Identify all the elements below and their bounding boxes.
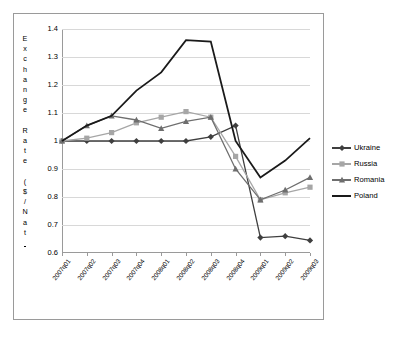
x-axis-tick-label: 2008q04 xyxy=(225,258,245,282)
y-axis-tick-label: 1.4 xyxy=(48,25,58,33)
y-axis-title-char: t xyxy=(19,228,31,238)
y-axis-tick-label: 0.8 xyxy=(48,193,58,201)
x-axis-tick-label: 2007q02 xyxy=(76,258,96,282)
y-axis-title-char: e xyxy=(19,156,31,166)
y-axis-tick-label: 0.7 xyxy=(48,221,58,229)
y-axis-title-char: E xyxy=(19,34,31,44)
y-axis-title-char: x xyxy=(19,44,31,54)
y-axis-tick-label: 1.1 xyxy=(48,109,58,117)
y-axis-title-char: $ xyxy=(19,187,31,197)
data-point-marker xyxy=(338,145,344,151)
y-axis-title-char: a xyxy=(19,136,31,146)
x-axis-tick-mark xyxy=(236,253,237,256)
y-axis-title-char: g xyxy=(19,95,31,105)
x-axis-tick-label: 2007q04 xyxy=(126,258,146,282)
y-axis-title-char: R xyxy=(19,126,31,136)
series-lines xyxy=(62,29,310,253)
y-axis-title-char: c xyxy=(19,54,31,64)
data-point-marker xyxy=(307,237,313,243)
legend-item-poland[interactable]: Poland xyxy=(332,188,402,204)
x-axis-tick-mark xyxy=(211,253,212,256)
x-axis-tick-label: 2009q01 xyxy=(250,258,270,282)
legend-label: Romania xyxy=(354,175,384,185)
y-axis-title-char: e xyxy=(19,105,31,115)
legend-key-icon xyxy=(332,191,351,201)
data-point-marker xyxy=(84,136,89,141)
plot-area: 1.41.31.21.110.90.80.70.6 2007q012007q02… xyxy=(62,29,310,253)
data-point-marker xyxy=(233,123,239,129)
series-line-poland xyxy=(62,40,310,177)
y-axis-title-char xyxy=(19,167,31,177)
data-point-marker xyxy=(307,185,312,190)
x-axis-tick-mark xyxy=(87,253,88,256)
series-line-romania xyxy=(62,116,310,200)
y-axis-title-char: N xyxy=(19,207,31,217)
data-point-marker xyxy=(233,166,239,172)
data-point-marker xyxy=(133,138,139,144)
data-point-marker xyxy=(257,235,263,241)
legend-item-russia[interactable]: Russia xyxy=(332,156,402,172)
data-point-marker xyxy=(183,138,189,144)
y-axis-title-char: a xyxy=(19,75,31,85)
x-axis-tick-label: 2008q01 xyxy=(151,258,171,282)
data-point-marker xyxy=(159,115,164,120)
data-point-marker xyxy=(158,138,164,144)
chart-legend: UkraineRussiaRomaniaPoland xyxy=(332,140,402,204)
series-line-russia xyxy=(62,112,310,200)
legend-label: Russia xyxy=(354,159,377,169)
x-axis-tick-mark xyxy=(62,253,63,256)
x-axis-tick-mark xyxy=(136,253,137,256)
data-point-marker xyxy=(339,161,344,166)
y-axis-title-char: a xyxy=(19,218,31,228)
data-point-marker xyxy=(307,174,313,180)
x-axis-tick-mark xyxy=(186,253,187,256)
data-point-marker xyxy=(338,177,344,183)
x-axis-tick-label: 2008q02 xyxy=(176,258,196,282)
y-axis-tick-label: 1.3 xyxy=(48,53,58,61)
chart-frame: Exchange Rate ($/Nat 1.41.31.21.110.90.8… xyxy=(13,13,324,320)
x-axis-tick-mark xyxy=(285,253,286,256)
data-point-marker xyxy=(282,233,288,239)
y-axis-title-char: n xyxy=(19,85,31,95)
x-axis-tick-mark xyxy=(112,253,113,256)
y-axis-title: Exchange Rate ($/Nat xyxy=(19,34,31,248)
x-axis-tick-label: 2009q03 xyxy=(300,258,320,282)
y-axis-title-char: t xyxy=(19,146,31,156)
y-axis-title-char: / xyxy=(19,197,31,207)
y-axis-title-char: h xyxy=(19,65,31,75)
data-point-marker xyxy=(233,154,238,159)
data-point-marker xyxy=(109,138,115,144)
x-axis-tick-label: 2007q01 xyxy=(52,258,72,282)
y-axis-title-char xyxy=(19,238,31,248)
x-axis-tick-mark xyxy=(260,253,261,256)
x-axis-tick-mark xyxy=(310,253,311,256)
data-point-marker xyxy=(109,130,114,135)
legend-label: Poland xyxy=(354,191,378,201)
data-point-marker xyxy=(282,187,288,193)
legend-line xyxy=(332,195,351,197)
y-axis-title-char xyxy=(19,116,31,126)
y-axis-tick-label: 1 xyxy=(54,137,58,145)
legend-key-icon xyxy=(332,175,351,185)
legend-key-icon xyxy=(332,159,351,169)
y-axis-tick-label: 0.9 xyxy=(48,165,58,173)
chart-screenshot: Exchange Rate ($/Nat 1.41.31.21.110.90.8… xyxy=(0,0,405,346)
legend-key-icon xyxy=(332,143,351,153)
x-axis-tick-mark xyxy=(161,253,162,256)
legend-item-ukraine[interactable]: Ukraine xyxy=(332,140,402,156)
y-axis-title-char: ( xyxy=(19,177,31,187)
y-axis-tick-label: 0.6 xyxy=(48,249,58,257)
legend-marker-square xyxy=(337,159,347,169)
x-axis-tick-label: 2008q03 xyxy=(200,258,220,282)
data-point-marker xyxy=(208,134,214,140)
legend-marker-diamond xyxy=(337,143,347,153)
legend-label: Ukraine xyxy=(354,143,380,153)
x-axis-tick-label: 2009q02 xyxy=(275,258,295,282)
x-axis-tick-label: 2007q03 xyxy=(101,258,121,282)
legend-marker-triangle xyxy=(337,175,347,185)
legend-item-romania[interactable]: Romania xyxy=(332,172,402,188)
y-axis-tick-label: 1.2 xyxy=(48,81,58,89)
data-point-marker xyxy=(183,109,188,114)
